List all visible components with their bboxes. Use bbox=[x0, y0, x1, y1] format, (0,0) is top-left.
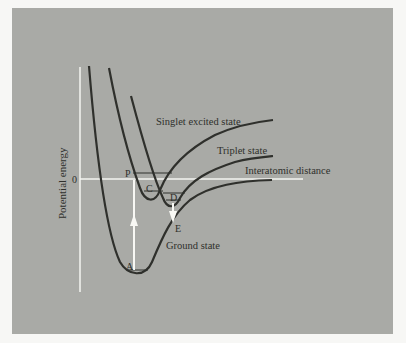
point-C: C bbox=[146, 183, 153, 194]
singlet-excited-curve bbox=[109, 68, 273, 200]
point-E: E bbox=[175, 223, 181, 234]
point-D: D bbox=[170, 192, 177, 203]
triplet-label: Triplet state bbox=[217, 145, 267, 156]
point-A: A bbox=[126, 261, 134, 272]
potential-energy-diagram: Potential energy 0 Interatomic distance … bbox=[0, 0, 406, 343]
zero-label: 0 bbox=[72, 174, 77, 185]
singlet-label: Singlet excited state bbox=[156, 116, 241, 127]
excitation-arrowhead-icon bbox=[130, 214, 138, 226]
point-P: P bbox=[125, 168, 131, 179]
x-axis-label: Interatomic distance bbox=[245, 165, 331, 176]
y-axis-label: Potential energy bbox=[56, 147, 68, 219]
ground-label: Ground state bbox=[166, 240, 220, 251]
